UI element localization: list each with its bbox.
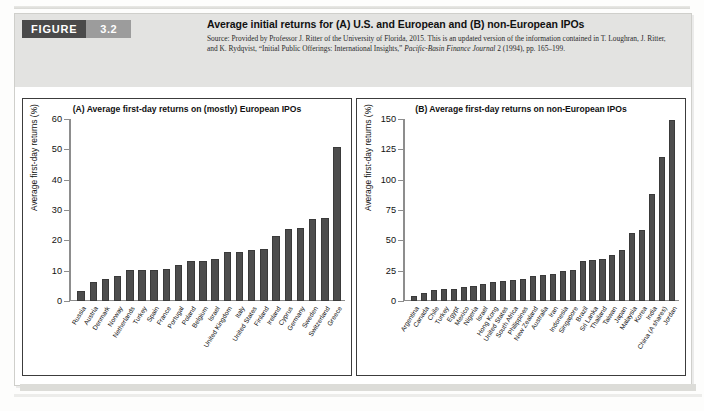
y-tick-label-a-50: 50 (52, 144, 62, 154)
bar (659, 157, 665, 301)
x-label-cell: Russia (75, 303, 87, 373)
bar (629, 233, 635, 301)
bar-cell (508, 119, 518, 301)
chart-panel-b: (B) Average first-day returns on non-Eur… (356, 98, 686, 376)
bar-cell (307, 119, 319, 301)
bar-cell (439, 119, 449, 301)
bar (309, 219, 317, 301)
bar-cell (148, 119, 160, 301)
bar (248, 250, 256, 301)
bar (126, 270, 134, 301)
x-label-cell: Germany (294, 303, 306, 373)
bar-cell (173, 119, 185, 301)
bar-cell (548, 119, 558, 301)
bar-cell (488, 119, 498, 301)
bar-cell (617, 119, 627, 301)
y-tick-b-50 (398, 240, 404, 241)
y-tick-a-30 (64, 210, 70, 211)
chart-a-plot-area: 0102030405060 (69, 119, 345, 301)
bar (175, 265, 183, 301)
figure-page: FIGURE 3.2 Average initial returns for (… (0, 0, 704, 411)
chart-b-bars (409, 119, 677, 301)
page-bottom-shadow (20, 384, 696, 391)
bar-cell (469, 119, 479, 301)
bar (236, 252, 244, 301)
figure-source: Source: Provided by Professor J. Ritter … (207, 34, 677, 53)
bar-cell (136, 119, 148, 301)
y-tick-b-125 (398, 149, 404, 150)
bar (77, 291, 85, 301)
x-label-cell: Norway (112, 303, 124, 373)
bar-cell (99, 119, 111, 301)
bar-cell (209, 119, 221, 301)
bar-cell (657, 119, 667, 301)
page-bottom-shadow-2 (14, 394, 702, 397)
x-label-cell: Ireland (270, 303, 282, 373)
bar (272, 236, 280, 301)
bar-cell (185, 119, 197, 301)
bar-cell (246, 119, 258, 301)
bar-cell (160, 119, 172, 301)
x-label-cell: United States (246, 303, 258, 373)
chart-panel-a: (A) Average first-day returns on (mostly… (22, 98, 352, 376)
x-label-cell: Switzerland (319, 303, 331, 373)
bar-cell (627, 119, 637, 301)
bar (649, 194, 655, 301)
chart-b-title: (B) Average first-day returns on non-Eur… (357, 104, 685, 114)
y-tick-label-b-75: 75 (386, 205, 396, 215)
figure-badge: FIGURE 3.2 (22, 20, 131, 38)
x-label-cell: Portugal (173, 303, 185, 373)
bar-cell (429, 119, 439, 301)
bar-cell (498, 119, 508, 301)
bar-cell (87, 119, 99, 301)
y-tick-label-b-25: 25 (386, 266, 396, 276)
bar-cell (528, 119, 538, 301)
chart-b-x-labels: ArgentinaCanadaChileTurkeyEgyptMexicoNig… (409, 303, 677, 373)
bar (589, 260, 595, 301)
bar (138, 270, 146, 301)
y-tick-label-a-60: 60 (52, 114, 62, 124)
source-line-3-post: 2 (1994), pp. 165–199. (495, 44, 565, 53)
y-tick-a-20 (64, 240, 70, 241)
y-tick-label-a-30: 30 (52, 205, 62, 215)
y-tick-a-60 (64, 119, 70, 120)
bar-cell (568, 119, 578, 301)
x-label-cell: Netherlands (124, 303, 136, 373)
bar (510, 280, 516, 301)
y-tick-label-b-100: 100 (381, 175, 396, 185)
bar (480, 284, 486, 301)
x-label-cell: Sweden (307, 303, 319, 373)
bar-cell (647, 119, 657, 301)
bar (599, 259, 605, 301)
bar-cell (319, 119, 331, 301)
source-line-3-ital: Journal (472, 44, 495, 53)
y-tick-b-25 (398, 271, 404, 272)
bar (441, 289, 447, 301)
bar-cell (607, 119, 617, 301)
y-tick-label-a-20: 20 (52, 235, 62, 245)
y-tick-a-50 (64, 149, 70, 150)
bar (163, 269, 171, 301)
x-label-cell: Poland (185, 303, 197, 373)
bar-cell (75, 119, 87, 301)
bar-cell (233, 119, 245, 301)
y-tick-label-a-10: 10 (52, 266, 62, 276)
y-tick-b-0 (398, 301, 404, 302)
bar-cell (578, 119, 588, 301)
bar (451, 289, 457, 301)
bar (560, 271, 566, 301)
bar (580, 261, 586, 301)
bar (150, 270, 158, 301)
bar-cell (197, 119, 209, 301)
bar-cell (449, 119, 459, 301)
bar (639, 230, 645, 301)
bar (411, 296, 417, 301)
bar-cell (294, 119, 306, 301)
x-label-cell: Cyprus (282, 303, 294, 373)
chart-b-plot-area: 0255075100125150 (403, 119, 679, 301)
bar (619, 250, 625, 301)
bar-cell (588, 119, 598, 301)
source-line-1: Source: Provided by Professor J. Ritter … (207, 34, 561, 43)
y-tick-label-b-150: 150 (381, 114, 396, 124)
bar (333, 147, 341, 301)
